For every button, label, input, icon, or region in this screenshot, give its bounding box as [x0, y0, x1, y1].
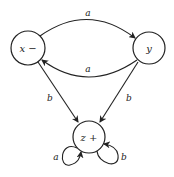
node-y-label: y	[145, 43, 152, 54]
edge-x-to-z-label: b	[47, 93, 53, 103]
loop-z-a: a	[53, 147, 81, 166]
node-y: y	[133, 32, 165, 64]
state-diagram: x − y z + a a b b	[0, 0, 174, 177]
node-x: x −	[11, 31, 45, 65]
edge-x-to-y: a	[40, 8, 135, 38]
edge-y-to-z-label: b	[126, 93, 132, 103]
edge-y-to-x-label: a	[85, 64, 90, 74]
edge-x-to-y-label: a	[85, 8, 90, 18]
loop-z-b-label: b	[121, 152, 127, 162]
edge-x-to-z: b	[38, 62, 78, 122]
loop-z-a-label: a	[53, 152, 58, 162]
edge-y-to-z: b	[100, 62, 138, 122]
edge-y-to-x: a	[42, 60, 137, 77]
node-x-label: x −	[19, 43, 36, 54]
node-z-label: z +	[80, 132, 98, 143]
diagram-svg: x − y z + a a b b	[0, 0, 174, 177]
node-z: z +	[73, 121, 105, 153]
